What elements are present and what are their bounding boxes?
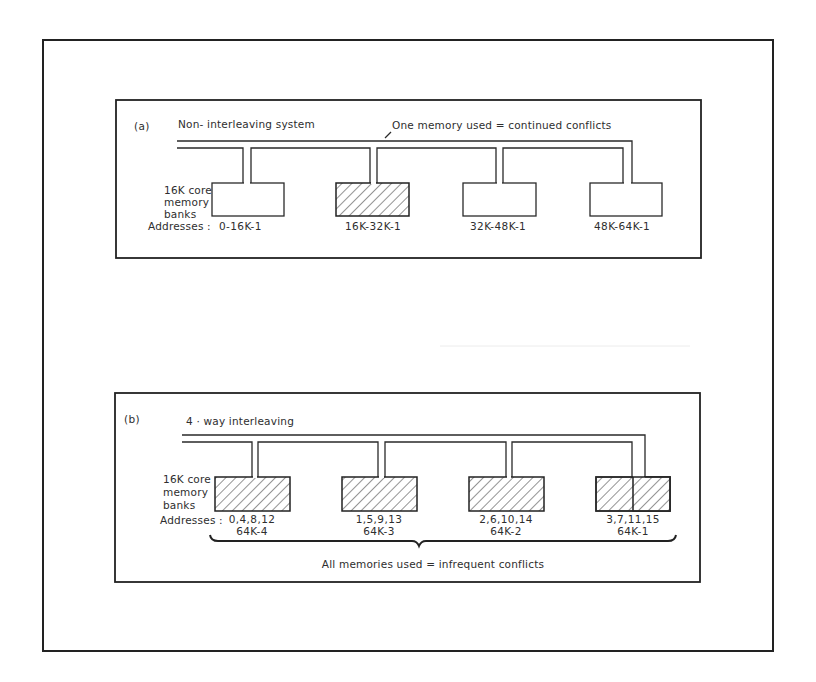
bank-address-b-1-line1: 0,4,8,12	[229, 513, 276, 525]
bank-address-a-2: 16K-32K-1	[345, 220, 401, 232]
bank-caption-b-2: memory	[163, 486, 208, 498]
addresses-label-a: Addresses :	[148, 220, 211, 232]
memory-bank-a-3	[463, 183, 536, 216]
memory-bank-a-2-active	[336, 183, 409, 216]
memory-bank-a-4	[590, 183, 662, 216]
panel-a-label: (a)	[134, 120, 150, 132]
bank-caption-a-2: memory	[164, 196, 209, 208]
bank-b-4-fill-fix	[633, 477, 670, 511]
bank-address-b-3-line1: 2,6,10,14	[479, 513, 533, 525]
panel-b-title: 4 · way interleaving	[186, 415, 294, 427]
bank-address-b-2-line1: 1,5,9,13	[356, 513, 403, 525]
panel-a: (a) Non- interleaving system One memory …	[116, 100, 701, 258]
bus-inner-b	[182, 442, 632, 477]
panel-b-annotation: All memories used = infrequent conflicts	[322, 558, 544, 570]
memory-bank-a-1	[212, 183, 284, 216]
memory-bank-b-3-active	[469, 477, 544, 511]
bank-address-a-1: 0-16K-1	[219, 220, 262, 232]
bank-address-b-2-line2: 64K-3	[363, 525, 395, 537]
bank-address-a-3: 32K-48K-1	[470, 220, 526, 232]
panel-a-annotation: One memory used = continued conflicts	[392, 119, 611, 131]
annotation-leader	[385, 132, 391, 138]
memory-interleaving-diagram: (a) Non- interleaving system One memory …	[0, 0, 816, 682]
bank-caption-a-3: banks	[164, 208, 196, 220]
grouping-brace	[210, 535, 676, 546]
addresses-label-b: Addresses :	[160, 514, 223, 526]
panel-a-title: Non- interleaving system	[178, 118, 315, 130]
bank-caption-b-1: 16K core	[163, 473, 211, 485]
bank-address-b-1-line2: 64K-4	[236, 525, 268, 537]
bus-inner-a	[177, 148, 623, 183]
memory-bank-b-1-active	[215, 477, 290, 511]
panel-b: (b) 4 · way interleaving 16K core memory…	[115, 393, 700, 582]
bank-address-b-4-line1: 3,7,11,15	[606, 513, 660, 525]
bank-address-a-4: 48K-64K-1	[594, 220, 650, 232]
bank-caption-a-1: 16K core	[164, 184, 212, 196]
panel-b-label: (b)	[124, 413, 140, 425]
bank-caption-b-3: banks	[163, 499, 195, 511]
bus-outer-a	[177, 141, 632, 183]
bank-address-b-4-line2: 64K-1	[617, 525, 649, 537]
memory-bank-b-2-active	[342, 477, 417, 511]
bank-address-b-3-line2: 64K-2	[490, 525, 522, 537]
